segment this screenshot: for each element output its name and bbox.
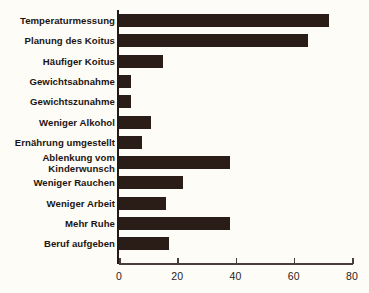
bar-row: Temperaturmessung: [0, 11, 369, 31]
category-label: Häufiger Koitus: [43, 56, 115, 67]
bar-row: Ernährung umgestellt: [0, 133, 369, 153]
category-label: Mehr Ruhe: [65, 219, 115, 230]
x-tick: [352, 258, 354, 264]
bar-row: Weniger Arbeit: [0, 194, 369, 214]
bar-row: Planung des Koitus: [0, 31, 369, 51]
bar: [119, 197, 166, 210]
x-tick: [177, 258, 179, 264]
bar: [119, 75, 131, 88]
category-label: Planung des Koitus: [25, 36, 115, 47]
category-label: Weniger Arbeit: [47, 198, 115, 209]
category-label: Beruf aufgeben: [44, 239, 115, 250]
bar-row: Weniger Alkohol: [0, 113, 369, 133]
bar-row: Beruf aufgeben: [0, 234, 369, 254]
bar-row: Weniger Rauchen: [0, 173, 369, 193]
bar-row: Gewichtsabnahme: [0, 72, 369, 92]
bar: [119, 116, 151, 129]
x-tick-label: 40: [229, 270, 241, 282]
category-label: Gewichtszunahme: [30, 97, 115, 108]
bar: [119, 176, 183, 189]
bar-chart: TemperaturmessungPlanung des KoitusHäufi…: [0, 0, 369, 293]
category-label: Weniger Rauchen: [33, 178, 115, 189]
bar: [119, 237, 169, 250]
bar: [119, 34, 308, 47]
bar: [119, 55, 163, 68]
x-tick-label: 60: [288, 270, 300, 282]
bar: [119, 156, 230, 169]
x-tick-label: 0: [116, 270, 122, 282]
x-tick: [119, 258, 121, 264]
bar-row: Ablenkung vom Kinderwunsch: [0, 153, 369, 173]
bar: [119, 95, 131, 108]
x-tick-label: 80: [346, 270, 358, 282]
category-label: Gewichtsabnahme: [29, 77, 115, 88]
x-tick: [236, 258, 238, 264]
bar: [119, 14, 329, 27]
x-tick: [294, 258, 296, 264]
category-label: Temperaturmessung: [20, 16, 115, 27]
bar-row: Häufiger Koitus: [0, 52, 369, 72]
bar-row: Mehr Ruhe: [0, 214, 369, 234]
bar: [119, 217, 230, 230]
bar: [119, 136, 142, 149]
category-label: Ablenkung vom Kinderwunsch: [42, 153, 115, 174]
category-label: Ernährung umgestellt: [15, 138, 115, 149]
category-label: Weniger Alkohol: [39, 117, 115, 128]
x-tick-label: 20: [171, 270, 183, 282]
bar-row: Gewichtszunahme: [0, 92, 369, 112]
